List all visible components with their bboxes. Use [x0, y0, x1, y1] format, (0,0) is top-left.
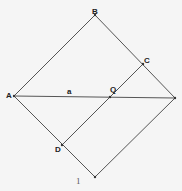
label-a: A	[6, 91, 12, 100]
label-figure-number: 1	[76, 176, 81, 186]
label-b: B	[92, 7, 98, 16]
diagram-canvas: B A C Q D a 1	[0, 0, 182, 191]
point-r-dot	[174, 97, 176, 99]
label-segment-a: a	[67, 87, 72, 96]
edge-ea	[14, 96, 95, 177]
label-d: D	[55, 145, 61, 154]
point-q-dot	[109, 96, 111, 98]
edge-br	[95, 15, 175, 98]
label-q: Q	[110, 85, 116, 94]
label-c: C	[144, 56, 150, 65]
edge-re	[95, 98, 175, 177]
edge-ab	[14, 15, 95, 96]
segment-cd	[62, 64, 143, 145]
point-e-dot	[94, 176, 96, 178]
point-d-dot	[61, 144, 63, 146]
diagonal-a	[14, 96, 175, 98]
square-diagram: B A C Q D a 1	[0, 0, 182, 191]
point-a-dot	[13, 95, 15, 97]
